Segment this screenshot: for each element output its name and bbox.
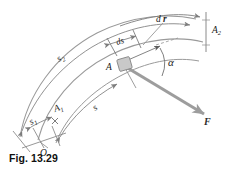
label-dr-d: d: [156, 14, 161, 24]
label-dr-r: r: [163, 14, 167, 24]
radial-line-mid: [33, 128, 44, 148]
radial-line-outer: [13, 131, 30, 152]
label-s1: s1: [27, 115, 38, 128]
middle-arc: [38, 39, 203, 140]
a2-marker: [202, 12, 210, 52]
outer-arc: [20, 16, 196, 137]
label-a: A: [105, 62, 112, 72]
mechanics-diagram: s2 s1 A1 s A ds d r α A2 F O: [0, 0, 249, 171]
force-vector-shaft: [126, 67, 204, 114]
label-a2: A2: [211, 25, 222, 36]
s-dimension: [60, 84, 117, 137]
label-s2: s2: [55, 51, 68, 65]
a1-marker: [52, 118, 58, 124]
label-s: s: [91, 102, 100, 113]
trajectory-curves: [20, 16, 203, 143]
dr-arrow: [128, 46, 160, 60]
label-ds: ds: [115, 35, 126, 47]
figure-caption: Fig. 13.29: [9, 152, 58, 164]
label-f: F: [203, 116, 211, 127]
figure-container: s2 s1 A1 s A ds d r α A2 F O Fig.: [0, 0, 249, 171]
force-vector: [126, 67, 204, 114]
angle-alpha-arc: [160, 48, 165, 76]
alpha-arc-path: [160, 48, 165, 76]
label-a1: A1: [51, 101, 64, 115]
origin-baseline: [22, 133, 66, 148]
label-alpha: α: [168, 56, 174, 68]
